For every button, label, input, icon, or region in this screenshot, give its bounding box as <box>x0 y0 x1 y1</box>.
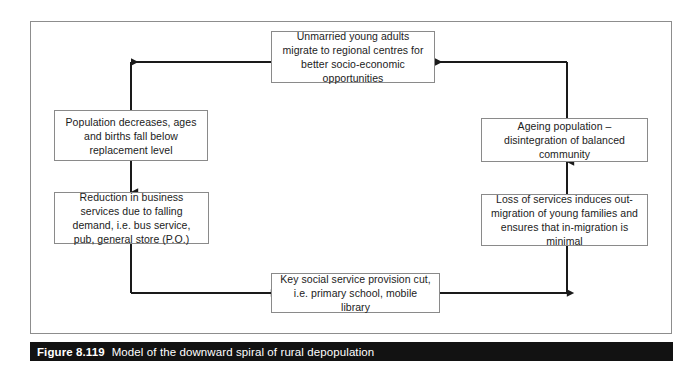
figure-caption-title: Model of the downward spiral of rural de… <box>112 346 375 358</box>
node-ageing-population: Ageing population – disintegration of ba… <box>481 118 648 162</box>
node-keyservice-label: Key social service provision cut, i.e. p… <box>278 272 433 314</box>
node-population-label: Population decreases, ages and births fa… <box>61 115 201 157</box>
node-migrate-label: Unmarried young adults migrate to region… <box>278 29 428 85</box>
figure-caption-bar: Figure 8.119 Model of the downward spira… <box>30 342 673 361</box>
figure-container: Unmarried young adults migrate to region… <box>0 0 698 378</box>
node-key-social-service-provision-cut: Key social service provision cut, i.e. p… <box>271 273 440 313</box>
node-loss-of-services: Loss of services induces out-migration o… <box>481 194 648 246</box>
node-loss-label: Loss of services induces out-migration o… <box>488 192 641 248</box>
node-reduction-in-business-services: Reduction in business services due to fa… <box>54 192 209 244</box>
figure-caption-number: Figure 8.119 <box>37 346 105 358</box>
node-ageing-label: Ageing population – disintegration of ba… <box>488 119 641 161</box>
node-reduction-label: Reduction in business services due to fa… <box>61 190 202 246</box>
node-unmarried-young-adults-migrate: Unmarried young adults migrate to region… <box>271 31 435 83</box>
node-population-decreases: Population decreases, ages and births fa… <box>54 110 208 161</box>
